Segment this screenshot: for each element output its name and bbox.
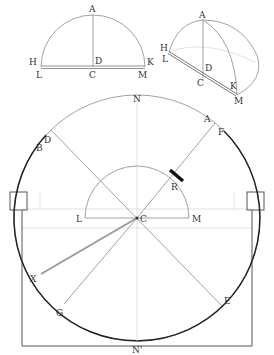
- label-d: D: [205, 63, 212, 73]
- label-l: L: [162, 54, 168, 64]
- base-lm: [168, 54, 236, 97]
- label-g: G: [56, 308, 63, 318]
- label-h: H: [160, 43, 168, 53]
- radius-cg: [64, 218, 137, 304]
- label-m: M: [192, 214, 201, 224]
- label-m: M: [234, 96, 243, 106]
- label-l: L: [76, 214, 82, 224]
- label-n-prime: N': [132, 345, 142, 355]
- center-point-c: [136, 217, 139, 220]
- label-c: C: [140, 214, 147, 224]
- label-l: L: [36, 70, 42, 80]
- stand-tab-left: [10, 192, 27, 210]
- label-e: E: [224, 296, 231, 306]
- label-x: X: [30, 274, 37, 284]
- label-r: R: [171, 182, 178, 192]
- label-f: F: [218, 127, 224, 137]
- label-n: N: [133, 94, 141, 104]
- panel-main-circle: N D B A F R L C M X G E N': [10, 94, 264, 355]
- radius-cf: [137, 123, 215, 218]
- ray-cx: [41, 218, 137, 274]
- panel-hemisphere: A H L D C K M: [160, 10, 259, 106]
- label-m: M: [138, 70, 147, 80]
- label-k: K: [230, 81, 237, 91]
- label-d: D: [95, 56, 102, 66]
- label-b: B: [36, 143, 43, 153]
- label-h: H: [29, 57, 37, 67]
- label-a: A: [203, 114, 211, 124]
- label-k: K: [147, 57, 154, 67]
- label-d: D: [44, 135, 51, 145]
- label-c: C: [197, 78, 204, 88]
- label-c: C: [89, 70, 96, 80]
- panel-semicircle-flat: A H D K L C M: [29, 4, 154, 80]
- label-a: A: [198, 10, 206, 20]
- diagram-canvas: A H D K L C M A H L D C K M: [0, 0, 274, 355]
- stand-tab-right: [247, 192, 264, 210]
- label-a: A: [88, 4, 96, 14]
